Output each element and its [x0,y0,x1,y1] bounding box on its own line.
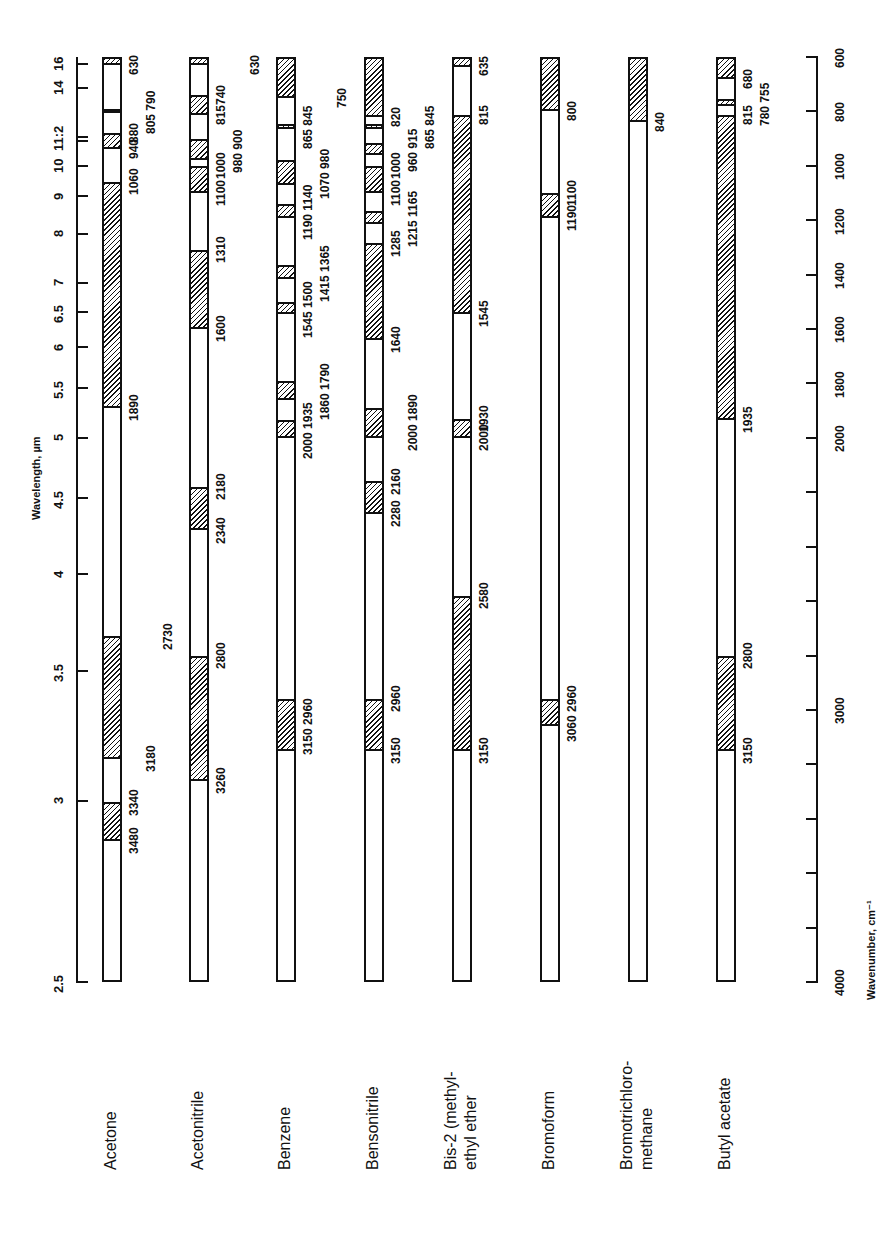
wavenumber-tick [806,274,818,276]
absorption-band [191,139,207,161]
absorption-band [104,802,120,840]
absorption-band [454,57,470,67]
band-wavenumber-label: 3150 [742,737,754,764]
compound-name: Benzene [276,1107,294,1170]
compound-name: Bromotrichloro- [618,1061,636,1170]
wavenumber-tick [806,818,818,820]
band-wavenumber-label: 1890 [128,394,140,421]
absorption-band [191,57,207,65]
absorption-band [454,419,470,438]
compound-bar [364,57,384,982]
wavelength-tick [76,670,88,672]
band-wavenumber-label: 3060 2960 [566,686,578,743]
band-wavenumber-label: 1545 1500 [302,281,314,338]
wavenumber-tick [806,382,818,384]
wavelength-axis-title: Wavelength, µm [30,436,43,520]
absorption-band [718,57,734,79]
band-wavenumber-label: 2340 [215,517,227,544]
compound-bar [276,57,296,982]
absorption-band [191,487,207,531]
band-wavenumber-label: 1070 980 [319,149,331,199]
wavenumber-tick-label: 1800 [834,371,847,398]
band-wavenumber-label: 815 [742,105,754,125]
compound-name: Bromoform [540,1091,558,1170]
wavenumber-tick [806,219,818,221]
band-wavenumber-label: 1640 [390,326,402,353]
wavenumber-axis-title: Wavenumber, cm⁻¹ [865,900,878,1000]
compound-name: Butyl acetate [716,1078,734,1171]
wavenumber-tick [806,491,818,493]
absorption-band [366,481,382,514]
wavelength-tick [76,87,88,89]
wavenumber-tick-label: 1000 [834,154,847,181]
band-wavenumber-label: 1100 [566,180,578,206]
band-wavenumber-label: 3150 [478,737,490,764]
wavenumber-tick [806,927,818,929]
band-wavenumber-label: 3150 2960 [302,698,314,755]
wavenumber-tick-label: 1200 [834,208,847,235]
wavelength-tick-label: 5 [52,434,65,441]
band-wavenumber-label: 2280 [390,501,402,528]
wavenumber-tick [806,872,818,874]
wavelength-tick [76,346,88,348]
wavelength-tick [76,195,88,197]
wavelength-tick-label: 6.5 [52,305,65,323]
wavelength-tick-label: 14 [52,81,65,95]
wavelength-tick [76,800,88,802]
compound-name: methane [638,1108,656,1170]
band-wavenumber-label: 1000 [390,152,402,179]
absorption-band [104,182,120,408]
absorption-band [366,166,382,193]
wavelength-tick [76,136,88,138]
band-wavenumber-label: 2730 [162,623,174,650]
absorption-band [278,57,294,98]
wavenumber-tick-label: 3000 [834,698,847,725]
absorption-band [366,57,382,117]
wavenumber-tick [806,328,818,330]
wavelength-tick-label: 16 [52,57,65,71]
wavelength-tick [76,573,88,575]
wavenumber-tick [806,437,818,439]
compound-bar [716,57,736,982]
band-wavenumber-label: 3180 [145,745,157,772]
wavelength-tick-label: 4 [52,570,65,577]
compound-name: Bis-2 (methyl- [442,1071,460,1170]
compound-name: Bensonitrile [364,1086,382,1170]
absorption-band [104,57,120,65]
band-wavenumber-label: 2000 1935 [302,402,314,459]
band-wavenumber-label: 1415 1365 [319,245,331,302]
wavenumber-tick-label: 800 [834,102,847,122]
absorption-band [366,699,382,751]
wavenumber-tick-label: 600 [834,48,847,68]
band-wavenumber-label: 680 [742,69,754,89]
wavenumber-tick [806,546,818,548]
wavenumber-tick [806,165,818,167]
absorption-band [191,656,207,781]
wavenumber-tick [806,763,818,765]
band-wavenumber-label: 980 900 [232,129,244,172]
absorption-band [542,193,558,217]
absorption-band [278,381,294,400]
band-wavenumber-label: 750 [336,88,348,108]
band-wavenumber-label: 1860 1790 [319,363,331,420]
wavelength-tick [76,282,88,284]
band-wavenumber-label: 1190 1140 [302,185,314,240]
compound-name: Acetonitrile [189,1091,207,1170]
absorption-band [454,115,470,314]
band-wavenumber-label: 2800 [742,642,754,669]
wavelength-tick [76,233,88,235]
band-wavenumber-label: 1545 [478,301,490,328]
band-wavenumber-label: 1935 [742,407,754,434]
band-wavenumber-label: 630 [128,55,140,75]
wavenumber-axis-line [816,57,818,982]
band-wavenumber-label: 1000 [215,152,227,179]
wavelength-tick-label: 10 [52,159,65,173]
absorption-band [191,166,207,193]
band-wavenumber-label: 2800 [215,642,227,669]
compound-name: ethyl ether [462,1095,480,1170]
absorption-band [542,699,558,726]
wavenumber-tick [806,110,818,112]
ir-transmission-chart: 161411:2109876.565.554.543.532.5 Wavelen… [0,0,887,1246]
absorption-band [718,115,734,420]
band-wavenumber-label: 865 845 [302,106,314,149]
